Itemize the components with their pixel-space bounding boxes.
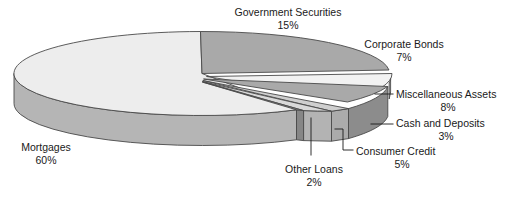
slice-label-name: Other Loans — [272, 163, 356, 176]
slice-label-percent: 15% — [222, 19, 354, 32]
slice-label-mortgages: Mortgages 60% — [8, 141, 84, 166]
pie-3d-body — [14, 31, 392, 145]
slice-side-consumer-credit — [304, 111, 332, 142]
slice-label-miscellaneous-assets: Miscellaneous Assets 8% — [396, 88, 514, 113]
slice-label-percent: 5% — [356, 158, 448, 171]
pie-chart-figure: Government Securities 15% Corporate Bond… — [0, 0, 514, 198]
slice-label-percent: 2% — [272, 176, 356, 189]
slice-label-percent: 3% — [396, 130, 496, 143]
slice-label-name: Miscellaneous Assets — [396, 88, 514, 101]
slice-label-name: Consumer Credit — [356, 145, 460, 158]
slice-label-consumer-credit: Consumer Credit 5% — [356, 145, 460, 170]
slice-label-percent: 8% — [396, 101, 500, 114]
slice-label-corporate-bonds: Corporate Bonds 7% — [352, 38, 456, 63]
slice-label-percent: 60% — [8, 154, 84, 167]
slice-side-cash-and-deposits — [332, 109, 349, 142]
slice-label-name: Corporate Bonds — [352, 38, 456, 51]
slice-label-other-loans: Other Loans 2% — [272, 163, 356, 188]
slice-label-cash-and-deposits: Cash and Deposits 3% — [396, 117, 514, 142]
slice-label-name: Government Securities — [222, 6, 354, 19]
slice-label-percent: 7% — [352, 51, 456, 64]
slice-side-other-loans — [297, 110, 304, 141]
slice-label-name: Cash and Deposits — [396, 117, 514, 130]
slice-label-government-securities: Government Securities 15% — [222, 6, 354, 31]
slice-label-name: Mortgages — [8, 141, 84, 154]
